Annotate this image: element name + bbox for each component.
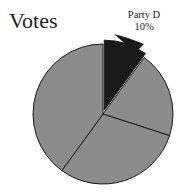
pie-chart [0,0,181,196]
